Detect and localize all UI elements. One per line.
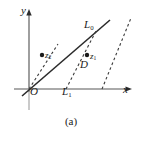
y-axis-arrowhead: [26, 9, 31, 16]
point-z1-marker: [85, 53, 89, 57]
dashed-ray-3: [102, 18, 131, 89]
figure-container: y x O L0 L1 D z1 z2 (a): [0, 0, 142, 141]
point-z2-marker: [40, 53, 44, 57]
figure-caption: (a): [0, 115, 142, 127]
x-axis-label: x: [123, 84, 128, 95]
y-axis-label: y: [21, 5, 26, 16]
x-axis-segment-label: L1: [62, 86, 72, 99]
origin-label: O: [30, 86, 38, 97]
point-z2-label-subscript: 2: [49, 54, 52, 60]
region-label: D: [80, 59, 88, 70]
dashed-ray-1: [29, 44, 58, 89]
point-z1-label: z1: [90, 52, 96, 62]
point-z2-label: z2: [45, 51, 51, 61]
solid-line-label-subscript: 0: [90, 24, 93, 31]
x-axis-segment-label-subscript: 1: [68, 91, 71, 98]
point-z1-label-subscript: 1: [94, 55, 97, 61]
solid-line-label: L0: [84, 19, 94, 32]
